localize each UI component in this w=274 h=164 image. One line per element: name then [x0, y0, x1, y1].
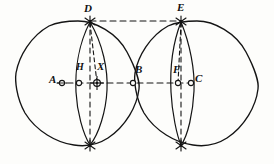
label-point-H: H [76, 62, 84, 72]
radius-D-to-X [90, 23, 97, 83]
marker-A [57, 80, 67, 85]
marker-X [90, 76, 104, 90]
marker-E-bottom [176, 140, 186, 151]
label-point-X: X [97, 61, 104, 72]
marker-C [188, 80, 193, 85]
label-point-D: D [84, 3, 92, 14]
label-point-B: B [135, 64, 142, 75]
marker-F [175, 80, 180, 85]
label-point-F: F [173, 64, 180, 75]
label-point-A: A [49, 74, 56, 85]
geometric-figure: A H X B F C D E [0, 0, 274, 164]
marker-H [76, 80, 81, 85]
label-point-E: E [177, 2, 184, 13]
figure-canvas [0, 0, 274, 164]
marker-B [130, 80, 135, 85]
label-point-C: C [195, 73, 202, 84]
